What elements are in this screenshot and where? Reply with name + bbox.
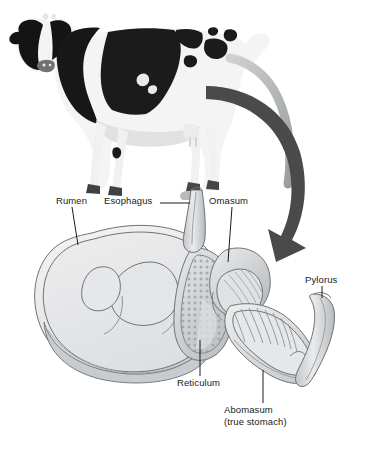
label-pylorus: Pylorus [305, 274, 337, 285]
organ-esophagus [183, 187, 205, 252]
label-abomasum: Abomasum [224, 404, 273, 415]
figure-canvas: Rumen Esophagus Omasum Pylorus Reticulum… [0, 0, 367, 451]
label-abomasum-sub: (true stomach) [224, 416, 287, 427]
label-reticulum: Reticulum [177, 377, 220, 388]
label-esophagus: Esophagus [104, 195, 152, 206]
label-rumen: Rumen [56, 195, 87, 206]
label-omasum: Omasum [209, 195, 248, 206]
